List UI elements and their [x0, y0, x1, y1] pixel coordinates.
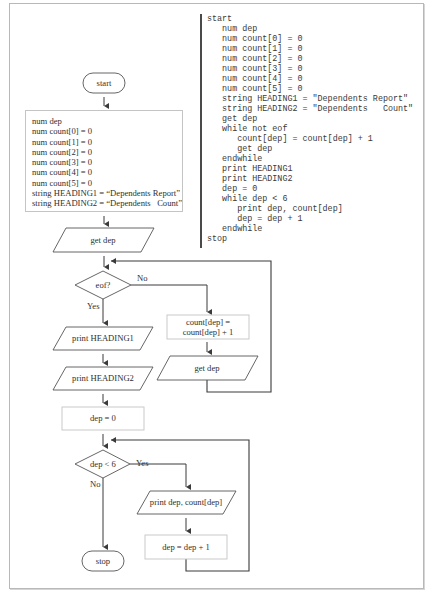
dep-zero-box: dep = 0: [62, 407, 144, 430]
print-heading1-label: print HEADING1: [72, 333, 134, 343]
no-label: No: [137, 273, 148, 283]
print-heading1-output: print HEADING1: [53, 327, 153, 350]
print-heading2-output: print HEADING2: [53, 367, 153, 390]
no-label-2: No: [90, 479, 101, 489]
stop-terminator: stop: [82, 551, 124, 571]
count-increment-line2: count[dep] + 1: [183, 327, 234, 337]
count-increment-line1: count[dep] =: [186, 317, 230, 327]
get-dep-input: get dep: [53, 228, 154, 252]
get-dep-label: get dep: [90, 235, 115, 245]
count-increment-box: count[dep] = count[dep] + 1: [167, 315, 249, 339]
stop-label: stop: [96, 556, 110, 566]
start-label: start: [97, 78, 112, 88]
print-dep-output: print dep, count[dep]: [137, 491, 236, 514]
print-dep-label: print dep, count[dep]: [150, 497, 222, 507]
dep-zero-label: dep = 0: [90, 413, 116, 423]
start-terminator: start: [83, 73, 125, 93]
dep-decision-label: dep < 6: [90, 459, 117, 469]
get-dep-input-2: get dep: [157, 356, 258, 380]
dep-decision: dep < 6: [75, 450, 130, 478]
yes-label-2: Yes: [136, 458, 149, 468]
dep-increment-label: dep = dep + 1: [162, 542, 209, 552]
eof-decision: eof?: [75, 271, 131, 299]
get-dep-label-2: get dep: [194, 363, 219, 373]
flowchart: start get dep eof? No Yes count[dep] = c…: [0, 0, 428, 598]
print-heading2-label: print HEADING2: [72, 373, 134, 383]
eof-label: eof?: [96, 280, 111, 290]
dep-increment-box: dep = dep + 1: [145, 535, 227, 559]
no-branch-line: [131, 285, 207, 312]
yes-label: Yes: [87, 301, 100, 311]
